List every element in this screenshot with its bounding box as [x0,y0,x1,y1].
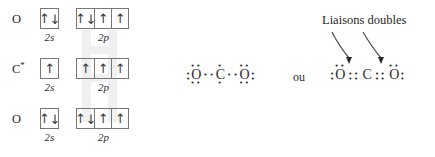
electron-arrows: ↑ [95,9,111,28]
s-subshell-label: 2s [40,81,59,93]
orbital-box: ↑ [41,59,58,78]
orbital-row-oxygen-top: O ↑↓ 2s ↑↓ ↑ ↑ 2p [0,6,170,52]
orbital-box: ↑ [77,59,94,78]
alternative-connector-label: ou [293,70,305,85]
electron-arrows: ↑ [77,59,94,78]
s-subshell-label: 2s [40,131,59,143]
orbital-box: ↑ [94,9,111,28]
lone-pair-dots-bottom: •• [191,80,202,87]
single-electron-dot-bottom: • [218,80,224,87]
lewis-structure-double-bonds: ••••O••••C••••••O•• [330,64,404,86]
s-subshell-group: ↑↓ 2s [40,8,59,43]
annotation-arrow-curve-left [332,32,349,58]
s-orbital-boxes: ↑ [40,58,59,79]
p-subshell-label: 2p [76,131,131,143]
electron-arrows: ↑ [41,59,58,78]
atom-excitation-star: * [20,60,25,70]
lewis-atom-oxygen-left: ••O•• [190,64,202,86]
electron-arrows: ↑ [112,109,128,128]
electron-arrows: ↑↓ [41,9,58,28]
lewis-atom-carbon: •C• [215,64,226,86]
lone-pair-dots-right: •• [400,71,404,81]
bond-electron-dots: • • [226,64,238,86]
electron-arrows: ↑↓ [77,109,94,128]
orbital-box: ↑ [111,59,128,78]
lone-pair-dots-top: •• [335,63,346,70]
orbital-box: ↑↓ [77,109,94,128]
orbital-row-oxygen-bottom: O ↑↓ 2s ↑↓ ↑ ↑ 2p [0,106,170,152]
atom-label: O [12,112,21,127]
lewis-structure-unpaired: ••••O••• ••C•• •••O•••• [186,64,255,86]
p-subshell-label: 2p [76,31,131,43]
lone-pair-dots-top: •• [389,63,400,70]
s-subshell-group: ↑↓ 2s [40,108,59,143]
orbital-box: ↑ [94,59,111,78]
p-orbital-boxes: ↑↓ ↑ ↑ [76,108,129,129]
lewis-atom-oxygen-right: ••O•• [239,64,251,86]
bond-electron-dots: • • [202,64,214,86]
lone-pair-dots-top: •• [239,63,250,70]
p-subshell-group: ↑ ↑ ↑ 2p [76,58,131,93]
lewis-atom-oxygen-right: ••O [388,64,400,86]
atom-label: C* [12,62,25,77]
orbital-box: ↑ [94,109,111,128]
lone-pair-dots-top: •• [191,63,202,70]
orbital-box: ↑↓ [41,109,58,128]
annotation-arrow-group [330,28,420,66]
p-subshell-group: ↑↓ ↑ ↑ 2p [76,108,131,143]
orbital-box: ↑ [111,109,128,128]
atom-symbol: O [12,112,21,126]
electron-arrows: ↑ [112,9,128,28]
double-bond-dots-right: •••• [373,71,388,81]
electron-arrows: ↑ [95,59,111,78]
orbital-box: ↑↓ [77,9,94,28]
s-subshell-label: 2s [40,31,59,43]
orbital-box: ↑↓ [41,9,58,28]
electron-arrows: ↑ [112,59,128,78]
p-subshell-label: 2p [76,81,131,93]
double-bond-dots-left: •••• [346,71,361,81]
annotation-arrowhead-right [378,57,384,64]
orbital-row-carbon-excited: C* ↑ 2s ↑ ↑ ↑ 2p [0,56,170,102]
electron-arrows: ↑↓ [41,109,58,128]
s-orbital-boxes: ↑↓ [40,8,59,29]
lone-pair-dots-right: •• [251,71,255,81]
electron-arrows: ↑ [95,109,111,128]
p-orbital-boxes: ↑↓ ↑ ↑ [76,8,129,29]
atom-label: O [12,12,21,27]
atom-symbol: C [362,64,373,86]
s-orbital-boxes: ↑↓ [40,108,59,129]
electron-arrows: ↑↓ [77,9,94,28]
atom-symbol: O [12,12,21,26]
s-subshell-group: ↑ 2s [40,58,59,93]
lone-pair-dots-bottom: •• [239,80,250,87]
orbital-box: ↑ [111,9,128,28]
lewis-atom-carbon: C [362,64,373,86]
lewis-atom-oxygen-left: ••O [334,64,346,86]
orbital-diagram: O ↑↓ 2s ↑↓ ↑ ↑ 2p [0,0,170,157]
single-electron-dot-top: • [218,63,224,70]
annotation-label: Liaisons doubles [322,13,406,28]
p-orbital-boxes: ↑ ↑ ↑ [76,58,129,79]
p-subshell-group: ↑↓ ↑ ↑ 2p [76,8,131,43]
annotation-arrow-curve-right [363,32,381,58]
annotation-arrowhead-left [346,57,352,64]
